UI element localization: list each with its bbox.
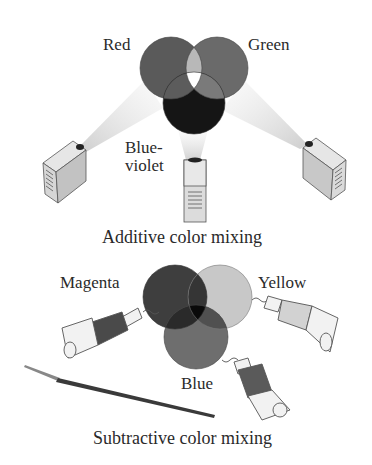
projector-right [303,138,346,200]
label-blue-violet-line1: Blue- [125,139,163,156]
caption-additive: Additive color mixing [102,228,262,246]
paint-tube-yellow [252,296,338,352]
caption-subtractive: Subtractive color mixing [93,429,272,447]
paint-tube-blue [222,358,290,420]
label-blue-violet-line2: violet [125,157,164,174]
label-yellow: Yellow [258,274,306,291]
label-blue: Blue [181,375,213,392]
label-green: Green [248,36,290,53]
projector-center [184,158,206,223]
additive-venn [140,37,248,134]
label-red: Red [103,36,130,53]
label-magenta: Magenta [60,274,119,291]
subtractive-venn [143,265,252,369]
projector-left [43,141,86,203]
paint-tube-magenta [62,308,159,358]
